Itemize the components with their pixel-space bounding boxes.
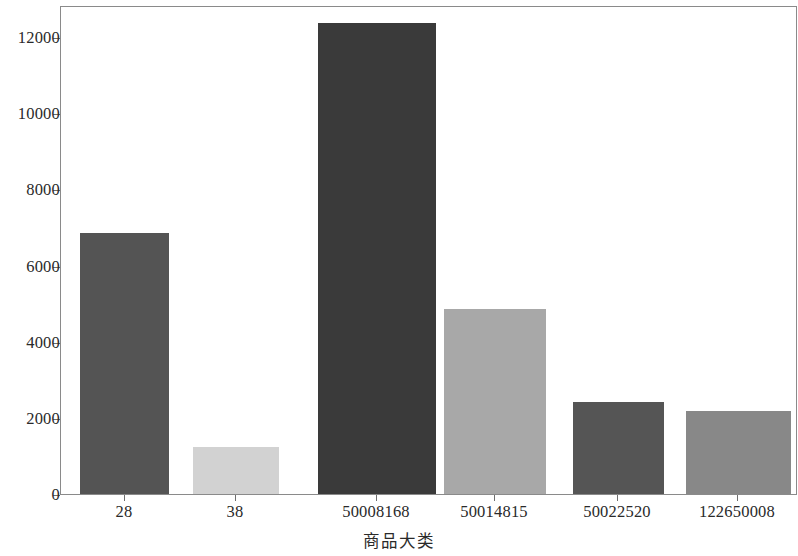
bar <box>686 411 791 494</box>
x-tick-mark <box>494 495 495 501</box>
bar <box>318 23 436 494</box>
y-tick-label: 4000 <box>12 333 60 353</box>
bar <box>444 309 546 494</box>
plot-area <box>60 6 797 495</box>
y-tick-label: 2000 <box>12 409 60 429</box>
bar <box>80 233 169 494</box>
x-tick-mark <box>376 495 377 501</box>
y-tick-label: 10000 <box>12 104 60 124</box>
bar <box>573 402 664 494</box>
y-axis-ticks: 120001000080006000400020000 <box>0 0 60 556</box>
x-tick-mark <box>124 495 125 501</box>
x-tick-label: 28 <box>116 502 133 522</box>
x-tick-label: 50014815 <box>460 502 528 522</box>
y-tick-label: 8000 <box>12 180 60 200</box>
y-tick-label: 12000 <box>12 28 60 48</box>
y-tick-label: 6000 <box>12 257 60 277</box>
x-tick-label: 122650008 <box>699 502 775 522</box>
x-tick-label: 50022520 <box>583 502 651 522</box>
x-tick-label: 38 <box>227 502 244 522</box>
bar-chart: 120001000080006000400020000 283850008168… <box>0 0 798 556</box>
x-tick-mark <box>617 495 618 501</box>
y-tick-label: 0 <box>12 485 60 505</box>
x-tick-label: 50008168 <box>342 502 410 522</box>
x-tick-mark <box>235 495 236 501</box>
x-axis-title: 商品大类 <box>0 528 798 552</box>
bar <box>193 447 279 494</box>
x-tick-mark <box>737 495 738 501</box>
